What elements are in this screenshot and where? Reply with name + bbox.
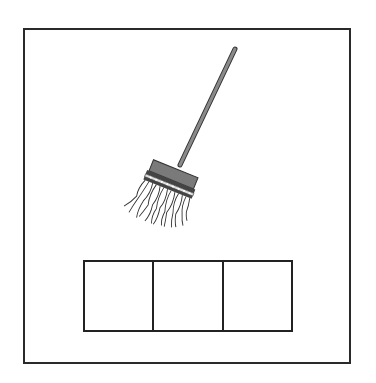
letter-box-1[interactable]	[83, 260, 154, 332]
letter-box-2[interactable]	[152, 260, 223, 332]
letter-boxes	[83, 260, 293, 332]
letter-box-3[interactable]	[222, 260, 293, 332]
